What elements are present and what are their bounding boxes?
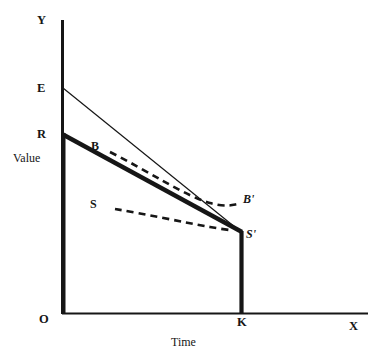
x-axis-arrow-label: X xyxy=(349,320,358,333)
origin-label: O xyxy=(39,313,49,326)
y-axis-title: Value xyxy=(13,152,40,164)
x-axis-title: Time xyxy=(171,336,196,348)
curve-label-B: B xyxy=(91,140,99,152)
chart-plot-area xyxy=(0,0,380,359)
series-dashed-curve-B-to-Bprime xyxy=(110,152,238,206)
curve-label-S: S xyxy=(90,198,97,210)
x-tick-label-K: K xyxy=(237,316,247,329)
curve-label-S-prime: S' xyxy=(246,228,256,240)
y-tick-label-E: E xyxy=(37,82,45,95)
y-tick-label-R: R xyxy=(37,128,46,141)
y-axis-arrow-label: Y xyxy=(37,14,46,27)
series-line-R-to-Sprime xyxy=(62,134,242,232)
curve-label-B-prime: B' xyxy=(243,193,254,205)
figure-canvas: Y E R Value O K X Time B B' S S' xyxy=(0,0,380,359)
